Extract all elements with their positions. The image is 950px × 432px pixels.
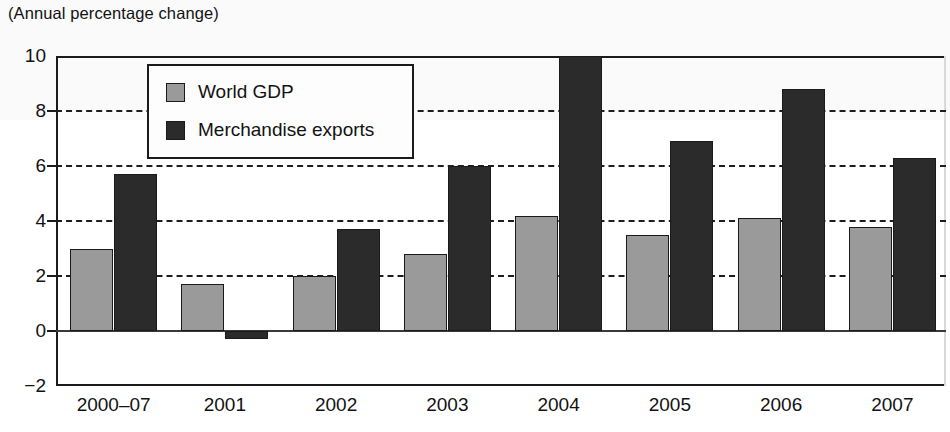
y-axis-tick-label: 10 xyxy=(4,45,46,67)
bar-2001-merchandise-exports xyxy=(225,331,268,339)
y-tick-2 xyxy=(47,275,56,277)
x-axis-label-2006: 2006 xyxy=(760,394,802,416)
bar-2003-merchandise-exports xyxy=(448,166,491,331)
bar-200007-merchandise-exports xyxy=(114,174,157,331)
x-axis-label-2007: 2007 xyxy=(871,394,913,416)
chart-figure: (Annual percentage change) 2000–07200120… xyxy=(0,0,950,432)
bar-2003-world-gdp xyxy=(404,254,447,331)
y-axis-tick-label: 4 xyxy=(4,210,46,232)
x-axis-label-2004: 2004 xyxy=(537,394,579,416)
legend-label-world-gdp: World GDP xyxy=(198,81,294,103)
legend-swatch-icon-merchandise-exports xyxy=(166,121,185,140)
legend-label-merchandise-exports: Merchandise exports xyxy=(198,119,374,141)
y-tick-4 xyxy=(47,220,56,222)
x-axis-line xyxy=(56,384,946,386)
y-axis-tick-label: −2 xyxy=(4,375,46,397)
y-axis-tick-label: 2 xyxy=(4,265,46,287)
y-tick-0 xyxy=(47,330,56,332)
legend-item-merchandise-exports: Merchandise exports xyxy=(166,119,374,141)
x-axis-label-2001: 2001 xyxy=(204,394,246,416)
bar-2002-merchandise-exports xyxy=(337,229,380,331)
chart-subtitle: (Annual percentage change) xyxy=(8,4,219,23)
bar-2005-merchandise-exports xyxy=(670,141,713,331)
y-axis-tick-label: 0 xyxy=(4,320,46,342)
legend-item-world-gdp: World GDP xyxy=(166,81,294,103)
y-axis-tick-label: 6 xyxy=(4,155,46,177)
bar-2007-merchandise-exports xyxy=(893,158,936,331)
bar-2004-merchandise-exports xyxy=(559,56,602,331)
bar-2004-world-gdp xyxy=(515,216,558,332)
legend-swatch-icon-world-gdp xyxy=(166,83,185,102)
bar-200007-world-gdp xyxy=(70,249,113,332)
x-axis-label-2003: 2003 xyxy=(426,394,468,416)
bar-2005-world-gdp xyxy=(626,235,669,331)
chart-legend: World GDP Merchandise exports xyxy=(147,64,414,159)
x-axis-label-2002: 2002 xyxy=(315,394,357,416)
bar-2006-merchandise-exports xyxy=(782,89,825,331)
bar-2007-world-gdp xyxy=(849,227,892,332)
plot-top-border xyxy=(56,56,946,58)
bar-2001-world-gdp xyxy=(181,284,224,331)
y-axis-tick-label: 8 xyxy=(4,100,46,122)
bar-2006-world-gdp xyxy=(738,218,781,331)
y-tick-8 xyxy=(47,110,56,112)
bar-2002-world-gdp xyxy=(293,276,336,331)
x-axis-label-200007: 2000–07 xyxy=(77,394,151,416)
x-axis-label-2005: 2005 xyxy=(649,394,691,416)
y-tick-6 xyxy=(47,165,56,167)
